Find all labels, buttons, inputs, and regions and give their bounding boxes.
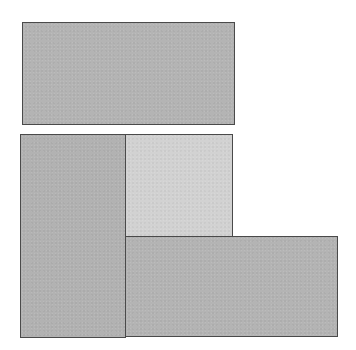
top-rectangle <box>22 22 235 125</box>
bottom-right-rectangle <box>125 236 338 337</box>
light-square <box>125 134 233 237</box>
left-tall-rectangle <box>20 134 126 338</box>
